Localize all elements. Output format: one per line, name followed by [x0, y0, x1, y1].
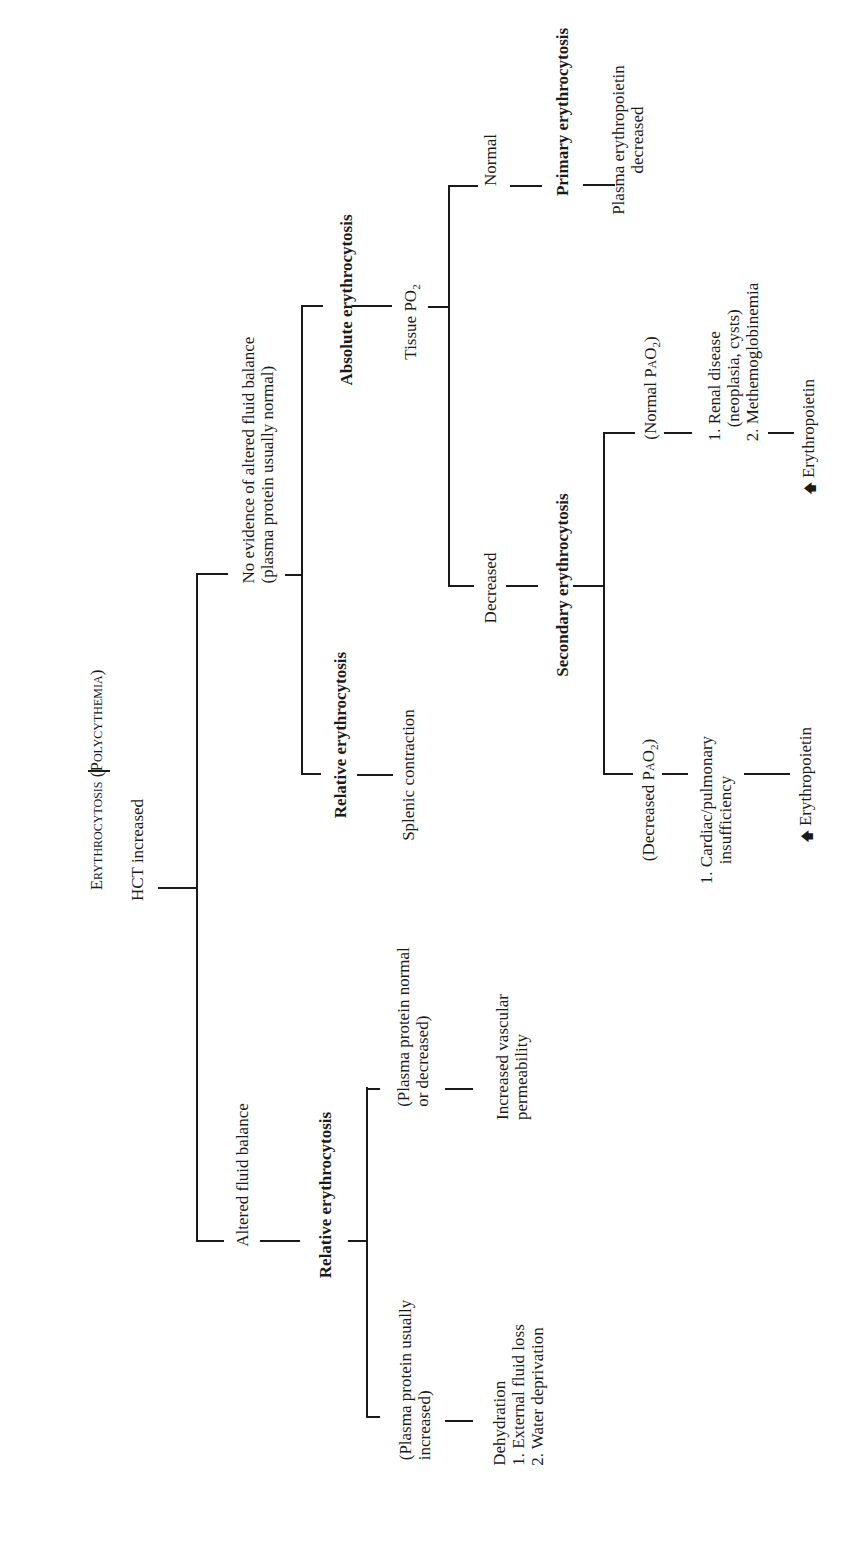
node-tissue-po2: Tissue PO2: [401, 284, 420, 359]
connector-secondary-split: [573, 585, 603, 587]
tissue-po2-prefix: Tissue P: [401, 302, 420, 360]
node-increased-epo-1: 🡅Erythropoietin: [799, 379, 819, 495]
connector-to-relative-2: [301, 773, 321, 775]
connector-normal-pao2-causes: [664, 432, 692, 434]
pp-normal-line1: (Plasma protein normal: [394, 947, 413, 1107]
decreased-pao2-main: aO: [639, 750, 658, 771]
cardiac-line2: insufficiency: [716, 736, 735, 884]
dehydration-cause-1: 1. External fluid loss: [509, 1324, 528, 1466]
node-normal: Normal: [481, 134, 500, 186]
connector-relative-split: [348, 1240, 366, 1242]
bracket-tissue-po2: [448, 185, 450, 587]
epo-label-2: Erythropoietin: [796, 727, 815, 826]
connector-cause-epo-2: [744, 773, 790, 775]
node-cardiac-pulmonary: 1. Cardiac/pulmonary insufficiency: [697, 736, 735, 884]
connector-pp-normal-permeability: [445, 1088, 473, 1090]
decreased-pao2-prefix: (Decreased P: [639, 771, 658, 861]
up-arrow-icon: 🡅: [797, 830, 816, 843]
decreased-pao2-suffix: ): [639, 739, 658, 745]
node-secondary-erythrocytosis: Secondary erythrocytosis: [553, 493, 572, 676]
cardiac-line1: 1. Cardiac/pulmonary: [697, 736, 716, 884]
connector-decreased-pao2-cause: [662, 773, 688, 775]
node-dehydration: Dehydration 1. External fluid loss 2. Wa…: [490, 1324, 547, 1466]
node-relative-erythrocytosis-1: Relative erythrocytosis: [316, 1112, 335, 1278]
bracket-relative-1: [366, 1087, 368, 1417]
connector-to-absolute: [301, 305, 323, 307]
pp-normal-line2: or decreased): [413, 947, 432, 1107]
node-decreased: Decreased: [481, 553, 500, 624]
connector-hct-split: [158, 887, 196, 889]
connector-to-altered: [196, 1240, 224, 1242]
dehydration-cause-2: 2. Water deprivation: [528, 1324, 547, 1466]
connector-relative-splenic: [357, 774, 393, 776]
connector-to-pp-increased: [366, 1416, 380, 1418]
node-renal-methemoglobinemia: 1. Renal disease (neoplasia, cysts) 2. M…: [705, 283, 762, 442]
dehydration-title: Dehydration: [490, 1324, 509, 1466]
plasma-epo-line2: decreased: [628, 65, 647, 215]
connector-causes-epo-1: [768, 432, 794, 434]
permeability-line2: permeability: [512, 994, 531, 1120]
normal-pao2-suffix: ): [641, 336, 660, 342]
methemoglobinemia: 2. Methemoglobinemia: [743, 283, 762, 442]
renal-disease-line1: 1. Renal disease: [705, 283, 724, 442]
up-arrow-icon: 🡅: [800, 482, 819, 495]
connector-to-decreased-pao2: [603, 773, 633, 775]
node-primary-erythrocytosis: Primary erythrocytosis: [553, 28, 572, 196]
connector-to-decreased: [448, 585, 474, 587]
bracket-secondary: [603, 432, 605, 775]
pp-increased-line1: (Plasma protein usually: [396, 1300, 415, 1461]
node-decreased-pao2: (Decreased PaO2): [639, 739, 658, 861]
renal-disease-line2: (neoplasia, cysts): [724, 283, 743, 442]
node-increased-epo-2: 🡅Erythropoietin: [796, 727, 816, 843]
connector-tissue-split: [428, 306, 448, 308]
node-absolute-erythrocytosis: Absolute erythrocytosis: [337, 214, 356, 385]
erythrocytosis-flowchart: Erythrocytosis (Polycythemia) HCT increa…: [0, 0, 858, 1561]
epo-label-1: Erythropoietin: [799, 379, 818, 478]
node-altered-fluid-balance: Altered fluid balance: [233, 1103, 252, 1247]
connector-root-hct: [88, 770, 110, 772]
node-hct-increased: HCT increased: [128, 799, 147, 901]
node-plasma-protein-increased: (Plasma protein usually increased): [396, 1300, 434, 1461]
node-relative-erythrocytosis-2: Relative erythrocytosis: [331, 652, 350, 818]
node-no-evidence: No evidence of altered fluid balance (pl…: [239, 337, 277, 584]
connector-decreased-secondary: [506, 585, 538, 587]
bracket-no-evidence: [301, 305, 303, 774]
root-node: Erythrocytosis (Polycythemia): [87, 670, 106, 891]
connector-to-pp-normal: [366, 1088, 380, 1090]
node-increased-vascular-permeability: Increased vascular permeability: [493, 994, 531, 1120]
tissue-po2-sub: 2: [410, 284, 422, 290]
tissue-po2-o: O: [401, 290, 420, 302]
connector-to-no-evidence: [196, 573, 228, 575]
no-evidence-line2: (plasma protein usually normal): [258, 337, 277, 584]
connector-to-normal: [448, 185, 478, 187]
normal-pao2-prefix: (Normal P: [641, 368, 660, 439]
node-plasma-protein-normal: (Plasma protein normal or decreased): [394, 947, 432, 1107]
connector-to-normal-pao2: [603, 432, 635, 434]
normal-pao2-sub: 2: [650, 342, 662, 348]
node-normal-pao2: (Normal PaO2): [641, 336, 660, 439]
node-plasma-epo-decreased: Plasma erythropoietin decreased: [609, 65, 647, 215]
pp-increased-line2: increased): [415, 1300, 434, 1461]
no-evidence-line1: No evidence of altered fluid balance: [239, 337, 258, 584]
bracket-level1: [196, 573, 198, 1241]
connector-absolute-tissue: [352, 305, 392, 307]
plasma-epo-line1: Plasma erythropoietin: [609, 65, 628, 215]
connector-pp-increased-dehydration: [445, 1420, 473, 1422]
connector-altered-relative: [260, 1240, 300, 1242]
connector-no-evidence-split: [285, 574, 301, 576]
normal-pao2-main: aO: [641, 347, 660, 368]
decreased-pao2-sub: 2: [648, 745, 660, 751]
connector-normal-primary: [510, 185, 542, 187]
node-splenic-contraction: Splenic contraction: [399, 709, 418, 841]
permeability-line1: Increased vascular: [493, 994, 512, 1120]
